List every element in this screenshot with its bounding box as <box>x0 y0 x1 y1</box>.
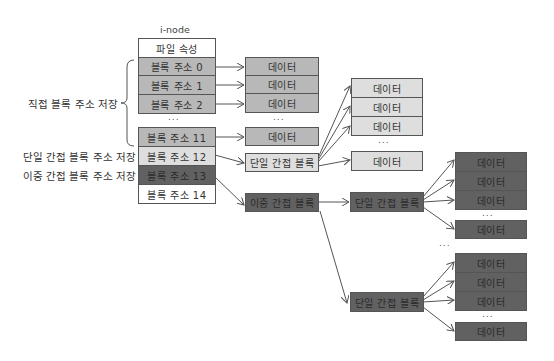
label-direct-block: 직접 블록 주소 저장 <box>20 96 118 111</box>
data-block-double-a-1: 데이터 <box>455 171 527 191</box>
data-block-double-b-2: 데이터 <box>455 291 527 311</box>
inode-ellipsis: ... <box>168 112 180 122</box>
data-block-direct-1: 데이터 <box>245 75 319 94</box>
data-block-double-a-2: 데이터 <box>455 190 527 210</box>
data-block-direct-2: 데이터 <box>245 93 319 113</box>
single-indirect-block: 단일 간접 블록 <box>245 153 319 172</box>
double-child-single-indirect-1: 단일 간접 블록 <box>350 192 424 212</box>
inode-title: i-node <box>160 24 190 35</box>
double-indirect-block: 이중 간접 블록 <box>245 193 319 212</box>
data-block-single-0: 데이터 <box>351 78 423 98</box>
data-block-single-last: 데이터 <box>351 151 423 171</box>
inode-block-address-13: 블록 주소 13 <box>138 165 216 185</box>
data-block-double-b-0: 데이터 <box>455 253 527 273</box>
inode-block-address-11: 블록 주소 11 <box>138 127 216 147</box>
label-single-indirect: 단일 간접 블록 주소 저장 <box>0 149 136 164</box>
double-a-ellipsis: ... <box>482 208 494 218</box>
double-child-single-indirect-2: 단일 간접 블록 <box>350 292 424 312</box>
data-block-direct-11: 데이터 <box>245 127 319 146</box>
label-double-indirect: 이중 간접 블록 주소 저장 <box>0 168 136 183</box>
data-block-single-2: 데이터 <box>351 116 423 136</box>
data-block-double-b-1: 데이터 <box>455 272 527 292</box>
single-data-ellipsis: ... <box>378 135 390 145</box>
data-block-double-a-0: 데이터 <box>455 152 527 172</box>
data-block-double-a-last: 데이터 <box>455 220 527 239</box>
inode-block-address-14: 블록 주소 14 <box>138 184 216 204</box>
inode-block-address-0: 블록 주소 0 <box>138 57 216 76</box>
inode-file-attributes: 파일 속성 <box>138 38 216 58</box>
double-children-ellipsis: ... <box>439 238 451 248</box>
data-block-double-b-last: 데이터 <box>455 322 527 341</box>
inode-block-address-1: 블록 주소 1 <box>138 75 216 95</box>
direct-data-ellipsis: ... <box>273 112 285 122</box>
double-b-ellipsis: ... <box>482 309 494 319</box>
data-block-single-1: 데이터 <box>351 97 423 117</box>
data-block-direct-0: 데이터 <box>245 57 319 76</box>
inode-block-address-2: 블록 주소 2 <box>138 94 216 114</box>
inode-block-address-12: 블록 주소 12 <box>138 146 216 166</box>
